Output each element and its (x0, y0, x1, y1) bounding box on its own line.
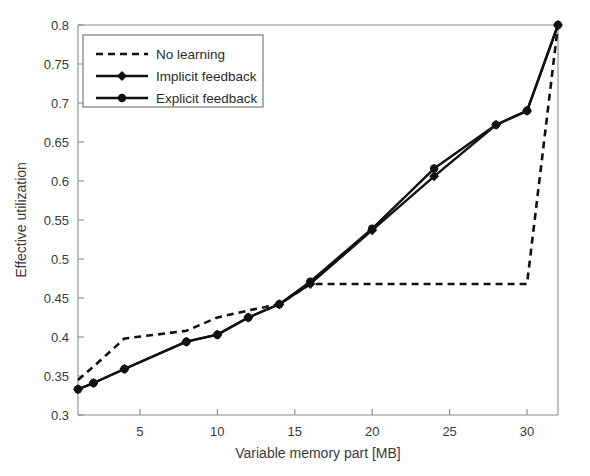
data-point-marker (306, 277, 314, 285)
x-tick-label: 10 (210, 424, 224, 439)
data-point-marker (368, 224, 376, 232)
y-tick-label: 0.65 (44, 135, 69, 150)
y-tick-label: 0.5 (51, 252, 69, 267)
y-tick-label: 0.45 (44, 291, 69, 306)
chart-figure: 0.30.350.40.450.50.550.60.650.70.750.8 5… (0, 0, 590, 476)
y-tick-label: 0.8 (51, 18, 69, 33)
legend-label: Implicit feedback (156, 69, 257, 84)
y-tick-label: 0.6 (51, 174, 69, 189)
legend-label: No learning (156, 47, 225, 62)
legend-sample-marker (118, 94, 126, 102)
data-point-marker (523, 107, 531, 115)
data-point-marker (89, 379, 97, 387)
y-tick-label: 0.3 (51, 408, 69, 423)
data-point-marker (554, 21, 562, 29)
x-axis-ticks: 51015202530 (136, 409, 534, 439)
data-point-marker (213, 330, 221, 338)
data-point-marker (74, 385, 82, 393)
data-point-marker (244, 313, 252, 321)
legend: No learningImplicit feedbackExplicit fee… (83, 35, 263, 107)
data-point-marker (430, 164, 438, 172)
y-tick-label: 0.75 (44, 57, 69, 72)
y-tick-label: 0.7 (51, 96, 69, 111)
data-point-marker (182, 337, 190, 345)
data-point-marker (492, 121, 500, 129)
y-axis-title: Effective utilization (13, 162, 29, 278)
x-axis-title: Variable memory part [MB] (235, 445, 400, 461)
x-tick-label: 5 (136, 424, 143, 439)
x-tick-label: 20 (365, 424, 379, 439)
line-chart: 0.30.350.40.450.50.550.60.650.70.750.8 5… (0, 0, 590, 476)
data-point-marker (275, 300, 283, 308)
x-tick-label: 25 (442, 424, 456, 439)
x-tick-label: 15 (288, 424, 302, 439)
x-tick-label: 30 (520, 424, 534, 439)
data-point-marker (120, 365, 128, 373)
legend-label: Explicit feedback (156, 91, 258, 106)
y-tick-label: 0.4 (51, 330, 69, 345)
y-tick-label: 0.35 (44, 369, 69, 384)
y-tick-label: 0.55 (44, 213, 69, 228)
